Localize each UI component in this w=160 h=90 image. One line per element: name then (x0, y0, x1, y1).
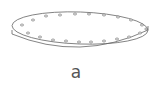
bolt-holes (20, 13, 147, 43)
figure-label: a (68, 62, 84, 82)
